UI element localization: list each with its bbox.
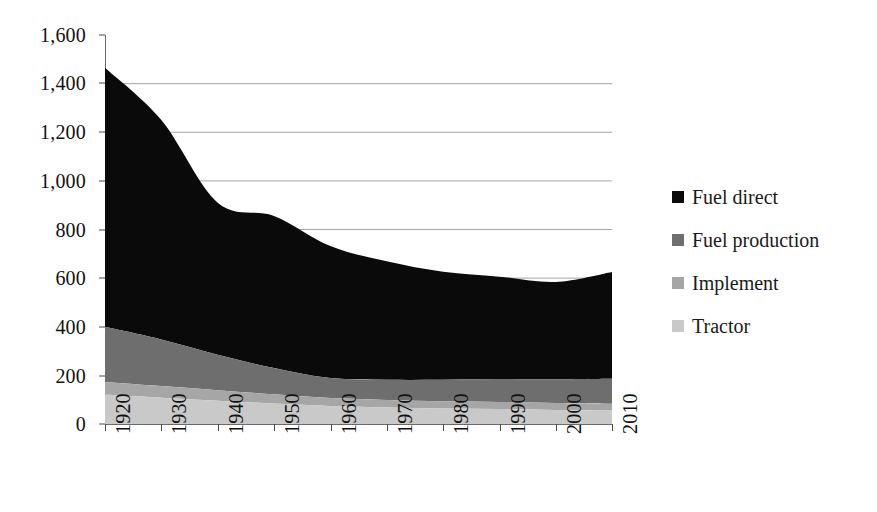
y-axis-label: 1,600: [40, 24, 86, 47]
y-axis-label: 1,400: [40, 72, 86, 95]
x-axis-label: 1980: [450, 393, 473, 434]
legend-item[interactable]: Fuel production: [672, 229, 872, 251]
x-axis-tick: [443, 424, 444, 431]
x-axis-tick: [612, 424, 613, 431]
legend-swatch-icon: [672, 320, 684, 332]
x-axis-label: 1970: [394, 393, 417, 434]
legend-swatch-icon: [672, 191, 684, 203]
x-axis-label: 1920: [112, 393, 135, 434]
area-series-group: [105, 68, 612, 424]
y-axis-label: 1,000: [40, 170, 86, 193]
y-axis-label: 200: [55, 365, 86, 388]
x-axis-tick: [387, 424, 388, 431]
x-axis-label: 2010: [619, 393, 642, 434]
legend-item-label: Fuel production: [692, 230, 819, 250]
y-axis-label: 800: [55, 219, 86, 242]
y-axis-label: 600: [55, 267, 86, 290]
x-axis-tick: [105, 424, 106, 431]
x-axis-label: 1930: [168, 393, 191, 434]
x-axis-tick: [218, 424, 219, 431]
x-axis-label: 1960: [338, 393, 361, 434]
chart-root: 1,600 1,400 1,200 1,000 800 600 400 200 …: [0, 0, 877, 512]
x-axis-tick: [274, 424, 275, 431]
x-axis-tick: [161, 424, 162, 431]
plot-area: [105, 35, 612, 424]
legend-item-label: Fuel direct: [692, 187, 778, 207]
x-axis-label: 1990: [507, 393, 530, 434]
legend-item[interactable]: Tractor: [672, 315, 872, 337]
y-axis-label: 400: [55, 316, 86, 339]
legend-item-label: Tractor: [692, 316, 750, 336]
x-axis-label: 2000: [563, 393, 586, 434]
y-axis: 1,600 1,400 1,200 1,000 800 600 400 200 …: [0, 0, 105, 512]
area-chart-svg: [105, 35, 612, 424]
y-axis-label: 0: [76, 413, 86, 436]
legend: Fuel direct Fuel production Implement Tr…: [672, 186, 872, 358]
area-series-fuel-direct: [105, 68, 612, 380]
x-axis-tick: [500, 424, 501, 431]
x-axis-label: 1940: [225, 393, 248, 434]
legend-swatch-icon: [672, 234, 684, 246]
legend-item[interactable]: Fuel direct: [672, 186, 872, 208]
legend-item[interactable]: Implement: [672, 272, 872, 294]
legend-item-label: Implement: [692, 273, 779, 293]
x-axis-label: 1950: [281, 393, 304, 434]
legend-swatch-icon: [672, 277, 684, 289]
y-axis-label: 1,200: [40, 121, 86, 144]
x-axis-tick: [331, 424, 332, 431]
x-axis-tick: [556, 424, 557, 431]
